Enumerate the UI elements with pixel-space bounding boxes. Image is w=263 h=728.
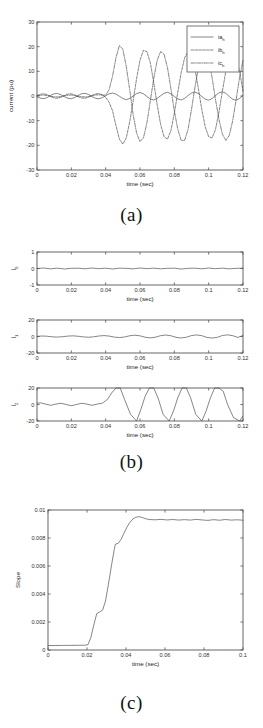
x-axis-label: time (sec) bbox=[132, 660, 159, 667]
legend-box bbox=[187, 26, 239, 72]
x-tick-label: 0.02 bbox=[82, 652, 93, 658]
x-tick-label: 0.1 bbox=[205, 287, 213, 293]
x-tick-label: 0.02 bbox=[66, 423, 77, 429]
plot-frame bbox=[48, 510, 243, 650]
plot-frame bbox=[37, 320, 243, 353]
y-tick-label: -30 bbox=[26, 167, 34, 173]
x-tick-label: 0.02 bbox=[66, 287, 77, 293]
x-tick-label: 0.1 bbox=[205, 355, 213, 361]
trace-i2 bbox=[37, 388, 243, 421]
x-tick-label: 0 bbox=[46, 652, 49, 658]
y-axis-label: Slope bbox=[14, 572, 21, 588]
y-tick-label: 20 bbox=[28, 44, 34, 50]
y-tick-label: 0.004 bbox=[31, 591, 45, 597]
x-tick-label: 0.02 bbox=[66, 172, 77, 178]
trace-Slope bbox=[48, 517, 243, 646]
chart-panel-c: 00.020.040.060.080.100.0020.0040.0060.00… bbox=[0, 498, 263, 694]
x-tick-label: 0.04 bbox=[100, 423, 111, 429]
x-tick-label: 0.08 bbox=[169, 423, 180, 429]
x-tick-label: 0.04 bbox=[121, 652, 132, 658]
x-tick-label: 0.06 bbox=[135, 287, 146, 293]
x-axis-label: time (sec) bbox=[126, 180, 153, 187]
x-tick-label: 0.1 bbox=[239, 652, 247, 658]
x-tick-label: 0.02 bbox=[66, 355, 77, 361]
x-tick-label: 0.1 bbox=[205, 172, 213, 178]
y-tick-label: 0 bbox=[31, 334, 34, 340]
x-tick-label: 0.12 bbox=[238, 423, 249, 429]
y-tick-label: 0.01 bbox=[35, 507, 46, 513]
plot-frame bbox=[37, 388, 243, 421]
x-axis-label: time (sec) bbox=[126, 295, 153, 302]
panel-c: 00.020.040.060.080.100.0020.0040.0060.00… bbox=[0, 498, 263, 728]
x-tick-label: 0 bbox=[35, 423, 38, 429]
y-tick-label: -20 bbox=[26, 350, 34, 356]
x-tick-label: 0.08 bbox=[169, 355, 180, 361]
x-tick-label: 0.06 bbox=[135, 423, 146, 429]
y-axis-label-i0: i0 bbox=[10, 266, 19, 270]
x-tick-label: 0.08 bbox=[169, 172, 180, 178]
y-tick-label: -20 bbox=[26, 142, 34, 148]
y-tick-label: 0 bbox=[31, 93, 34, 99]
x-tick-label: 0 bbox=[35, 287, 38, 293]
panel-a-caption: (a) bbox=[0, 204, 263, 226]
panel-a: 00.020.040.060.080.10.12-30-20-100102030… bbox=[0, 0, 263, 232]
chart-panel-b: 00.020.040.060.080.10.12-101time (sec)i0… bbox=[0, 236, 263, 451]
x-tick-label: 0.08 bbox=[199, 652, 210, 658]
x-axis-label: time (sec) bbox=[126, 431, 153, 438]
x-tick-label: 0.06 bbox=[135, 172, 146, 178]
trace-i0 bbox=[37, 268, 243, 269]
y-tick-label: 1 bbox=[31, 249, 34, 255]
x-tick-label: 0.1 bbox=[205, 423, 213, 429]
trace-i1 bbox=[37, 335, 243, 338]
x-tick-label: 0.04 bbox=[100, 172, 111, 178]
x-tick-label: 0.06 bbox=[135, 355, 146, 361]
y-tick-label: 0 bbox=[42, 647, 45, 653]
x-tick-label: 0.08 bbox=[169, 287, 180, 293]
panel-b: 00.020.040.060.080.10.12-101time (sec)i0… bbox=[0, 236, 263, 494]
chart-panel-a: 00.020.040.060.080.10.12-30-20-100102030… bbox=[0, 0, 263, 208]
y-tick-label: 0.002 bbox=[31, 619, 45, 625]
y-tick-label: 10 bbox=[28, 68, 34, 74]
trace-ia_h bbox=[37, 92, 243, 100]
y-axis-label-i1: i1 bbox=[10, 334, 19, 338]
x-tick-label: 0.12 bbox=[238, 172, 249, 178]
x-tick-label: 0.12 bbox=[238, 355, 249, 361]
y-tick-label: -1 bbox=[29, 282, 34, 288]
y-tick-label: 0 bbox=[31, 266, 34, 272]
y-tick-label: 0 bbox=[31, 402, 34, 408]
panel-b-caption: (b) bbox=[0, 451, 263, 473]
x-tick-label: 0 bbox=[35, 355, 38, 361]
y-tick-label: 30 bbox=[28, 19, 34, 25]
figure-container: 00.020.040.060.080.10.12-30-20-100102030… bbox=[0, 0, 263, 728]
x-tick-label: 0.04 bbox=[100, 287, 111, 293]
y-tick-label: 20 bbox=[28, 317, 34, 323]
x-tick-label: 0 bbox=[35, 172, 38, 178]
x-tick-label: 0.06 bbox=[160, 652, 171, 658]
y-tick-label: 20 bbox=[28, 385, 34, 391]
y-tick-label: -10 bbox=[26, 118, 34, 124]
y-tick-label: 0.008 bbox=[31, 535, 45, 541]
y-axis-label: current (pu) bbox=[7, 80, 14, 112]
y-tick-label: -20 bbox=[26, 418, 34, 424]
y-tick-label: 0.006 bbox=[31, 563, 45, 569]
x-axis-label: time (sec) bbox=[126, 363, 153, 370]
x-tick-label: 0.04 bbox=[100, 355, 111, 361]
y-axis-label-i2: i2 bbox=[10, 402, 19, 406]
panel-c-caption: (c) bbox=[0, 692, 263, 714]
x-tick-label: 0.12 bbox=[238, 287, 249, 293]
